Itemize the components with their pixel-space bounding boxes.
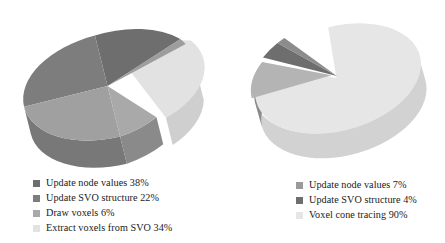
right-pie-svg: [230, 0, 445, 172]
legend-label: Voxel cone tracing 90%: [309, 209, 408, 221]
legend-label: Update SVO structure 4%: [309, 194, 417, 206]
legend-label: Update node values 7%: [309, 179, 407, 191]
legend-swatch: [33, 225, 40, 232]
left-pie-chart: [0, 0, 230, 172]
left-chart-panel: Update node values 38% Update SVO struct…: [0, 0, 230, 243]
legend-item: Draw voxels 6%: [33, 206, 263, 220]
legend-label: Extract voxels from SVO 34%: [46, 222, 172, 234]
legend-item: Update SVO structure 4%: [296, 193, 445, 207]
legend-swatch: [296, 212, 303, 219]
legend-item: Update node values 7%: [296, 178, 445, 192]
left-chart-legend: Update node values 38% Update SVO struct…: [0, 176, 263, 236]
legend-item: Voxel cone tracing 90%: [296, 208, 445, 222]
legend-swatch: [33, 195, 40, 202]
pie-chart-figure: Update node values 38% Update SVO struct…: [0, 0, 445, 243]
right-chart-legend: Update node values 7% Update SVO structu…: [230, 178, 445, 223]
legend-swatch: [33, 210, 40, 217]
legend-swatch: [296, 197, 303, 204]
legend-item: Extract voxels from SVO 34%: [33, 221, 263, 235]
right-chart-panel: Update node values 7% Update SVO structu…: [230, 0, 445, 243]
legend-swatch: [296, 182, 303, 189]
legend-swatch: [33, 180, 40, 187]
right-pie-chart: [230, 0, 445, 172]
legend-label: Update node values 38%: [46, 177, 149, 189]
legend-item: Update SVO structure 22%: [33, 191, 263, 205]
legend-label: Draw voxels 6%: [46, 207, 115, 219]
left-pie-svg: [0, 0, 230, 172]
legend-item: Update node values 38%: [33, 176, 263, 190]
legend-label: Update SVO structure 22%: [46, 192, 159, 204]
